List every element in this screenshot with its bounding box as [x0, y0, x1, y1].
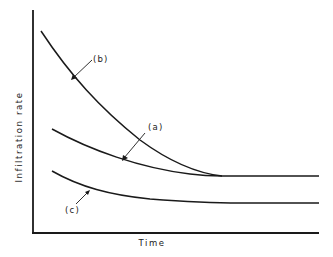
- arrow-a: [124, 133, 145, 158]
- arrow-c: [76, 192, 88, 204]
- annotation-c: (c): [65, 190, 90, 215]
- curve-a: [52, 129, 222, 176]
- curve-b: [41, 31, 319, 176]
- label-b: (b): [93, 54, 109, 64]
- axes: [32, 10, 319, 233]
- arrow-b: [73, 60, 92, 78]
- annotation-b: (b): [71, 54, 109, 80]
- y-axis-label: Infiltration rate: [14, 91, 24, 182]
- x-axis-label: Time: [137, 238, 165, 248]
- label-c: (c): [65, 205, 80, 215]
- label-a: (a): [148, 122, 163, 132]
- infiltration-chart: (b) (a) (c) Time Infiltration rate: [0, 0, 333, 257]
